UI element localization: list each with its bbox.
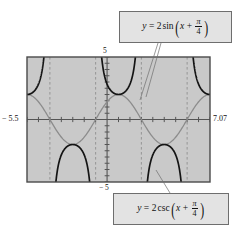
figure-stage: − 5.5 7.07 5 − 5 y = 2 sin ( x + π 4 ) y… [0,0,239,233]
sine-eq-coefficient: 2 [157,22,162,32]
sine-eq-variable: x [180,22,184,32]
csc-eq-y: y [137,204,141,214]
xmin-label: − 5.5 [2,114,19,123]
csc-eq-variable: x [176,204,180,214]
csc-eq-function: csc [157,204,169,214]
sine-eq-plus: + [187,22,192,32]
ymin-label: − 5 [99,183,109,192]
sine-eq-equals: = [149,22,154,32]
sine-equation-text: y = 2 sin ( x + π 4 ) [142,18,209,36]
csc-eq-denominator: 4 [192,210,198,218]
sine-eq-function: sin [162,22,173,32]
csc-eq-coefficient: 2 [152,204,157,214]
callout-sine-equation: y = 2 sin ( x + π 4 ) [119,11,232,43]
csc-eq-equals: = [144,204,149,214]
sine-eq-denominator: 4 [195,28,201,36]
sine-eq-y: y [142,22,146,32]
csc-eq-fraction: π 4 [192,200,198,218]
csc-equation-text: y = 2 csc ( x + π 4 ) [137,200,205,218]
xmax-label: 7.07 [213,114,227,123]
sine-eq-numerator: π [195,18,201,26]
ymax-label: 5 [103,46,107,55]
callout-csc-equation: y = 2 csc ( x + π 4 ) [113,193,229,225]
sine-eq-fraction: π 4 [195,18,201,36]
csc-eq-plus: + [183,204,188,214]
csc-eq-numerator: π [192,200,198,208]
